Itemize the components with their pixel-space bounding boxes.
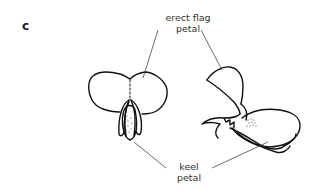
label-flag-line1: erect flag — [160, 12, 216, 23]
front-keel-dots — [126, 115, 132, 132]
leader-lines — [134, 30, 268, 168]
flower-diagram: c — [0, 0, 314, 194]
leader-flag-side — [201, 30, 222, 70]
leader-keel-front — [134, 142, 166, 168]
leader-keel-side — [212, 142, 268, 168]
label-keel-line1: keel — [169, 161, 209, 172]
side-wing-teeth — [224, 118, 234, 128]
leader-flag-front — [143, 30, 158, 78]
flower-illustration — [0, 0, 314, 194]
side-view-flower — [202, 67, 300, 153]
front-view-flower — [89, 72, 167, 140]
side-flag-lower-edge — [207, 80, 240, 114]
side-keel-dots — [246, 118, 256, 126]
label-keel-petal: keel petal — [169, 161, 209, 183]
side-flag-petal — [207, 67, 243, 104]
side-keel-petal — [232, 109, 300, 147]
label-flag-line2: petal — [160, 23, 216, 34]
label-erect-flag-petal: erect flag petal — [160, 12, 216, 34]
front-flag-petal — [89, 72, 167, 114]
label-keel-line2: petal — [169, 172, 209, 183]
